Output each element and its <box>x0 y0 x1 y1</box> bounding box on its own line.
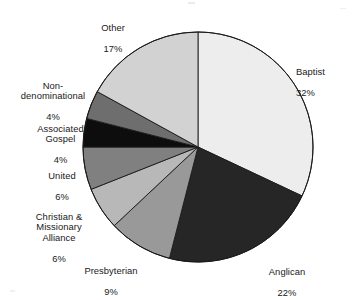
pie-label-non-denominational: Non- denominational 4% <box>7 70 99 134</box>
pie-label-anglican-percent: 22% <box>255 288 319 299</box>
pie-label-presbyterian-percent: 9% <box>72 287 150 298</box>
pie-label-other-percent: 17% <box>86 44 140 55</box>
pie-label-baptist: Baptist 32% <box>296 56 352 109</box>
pie-label-other-name: Other <box>86 23 140 34</box>
pie-label-non-denominational-name: Non- denominational <box>7 81 99 102</box>
pie-label-anglican: Anglican 22% <box>255 256 319 300</box>
pie-label-cma-name: Christian & Missionary Alliance <box>21 212 97 244</box>
pie-label-other: Other 17% <box>86 12 140 65</box>
pie-label-anglican-name: Anglican <box>255 267 319 278</box>
pie-label-united-percent: 6% <box>32 192 92 203</box>
pie-label-baptist-name: Baptist <box>296 67 352 78</box>
pie-label-cma-percent: 6% <box>21 254 97 265</box>
pie-slices-group <box>83 32 313 262</box>
pie-label-non-denominational-percent: 4% <box>7 112 99 123</box>
pie-label-associated-gospel-percent: 4% <box>23 155 98 166</box>
pie-label-baptist-percent: 32% <box>296 88 352 99</box>
